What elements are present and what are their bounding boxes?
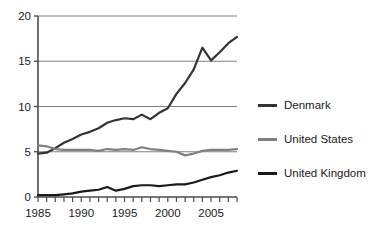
- chart-legend: Denmark United States United Kingdom: [258, 98, 377, 200]
- legend-item-united-kingdom: United Kingdom: [258, 166, 377, 180]
- svg-text:1990: 1990: [68, 207, 94, 219]
- gridlines: [38, 16, 237, 152]
- svg-text:0: 0: [25, 191, 31, 203]
- svg-text:2005: 2005: [198, 207, 224, 219]
- svg-text:2000: 2000: [155, 207, 181, 219]
- chart-figure: 05101520 19851990199520002005 Denmark Un…: [0, 0, 377, 238]
- legend-label-united-states: United States: [284, 133, 353, 146]
- x-axis-tick-labels: 19851990199520002005: [25, 207, 224, 219]
- legend-item-united-states: United States: [258, 132, 377, 146]
- y-axis-tick-labels: 05101520: [18, 10, 31, 203]
- data-series-group: [38, 37, 237, 195]
- legend-swatch-united-kingdom: [258, 172, 277, 175]
- legend-swatch-united-states: [258, 138, 277, 141]
- legend-label-united-kingdom: United Kingdom: [284, 167, 366, 180]
- legend-swatch-denmark: [258, 104, 277, 107]
- svg-text:1985: 1985: [25, 207, 51, 219]
- svg-text:5: 5: [25, 146, 31, 158]
- svg-text:20: 20: [18, 10, 31, 22]
- svg-text:15: 15: [18, 55, 31, 67]
- svg-text:10: 10: [18, 101, 31, 113]
- legend-item-denmark: Denmark: [258, 98, 377, 112]
- legend-label-denmark: Denmark: [284, 99, 331, 112]
- svg-text:1995: 1995: [112, 207, 138, 219]
